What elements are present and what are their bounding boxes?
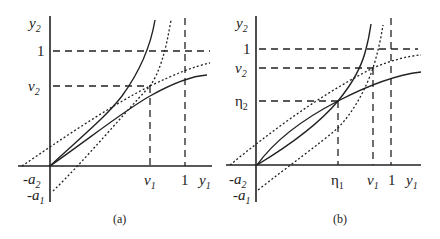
caption-b: (b) (333, 212, 347, 226)
y-tick-eta2-b: η2 (235, 93, 248, 112)
dotted-curve-concave-b (230, 55, 421, 165)
y-axis-label-b: y2 (234, 15, 248, 34)
solid-curve-concave-a (50, 75, 207, 166)
x-tick-v1-a: v1 (144, 172, 156, 191)
caption-a: (a) (113, 212, 126, 226)
y-tick-v2-a: v2 (28, 78, 40, 97)
y-tick-v2-b: v2 (235, 60, 247, 79)
panel-b: y2 1 v2 η2 η1 v1 1 y1 -a2 -a1 (b) (226, 15, 421, 226)
y-tick-1-a: 1 (37, 43, 45, 59)
x-tick-1-a: 1 (181, 172, 189, 188)
panel-a: y2 1 v2 v1 1 y1 -a2 -a1 (a) (18, 15, 212, 226)
neg-a1-label-a: -a1 (27, 187, 45, 206)
neg-a1-label-b: -a1 (233, 187, 251, 206)
solid-curve-steep-b (257, 24, 371, 165)
y-axis-label-a: y2 (27, 15, 41, 34)
figure: y2 1 v2 v1 1 y1 -a2 -a1 (a) y2 1 v2 η2 η… (0, 0, 440, 239)
solid-curve-concave-b (257, 72, 421, 165)
x-tick-1-b: 1 (388, 172, 396, 188)
x-tick-eta1-b: η1 (331, 172, 344, 191)
solid-curve-steep-a (50, 20, 155, 166)
y-tick-1-b: 1 (243, 41, 251, 57)
x-axis-label-a: y1 (197, 172, 211, 191)
x-axis-label-b: y1 (404, 172, 418, 191)
x-tick-v1-b: v1 (367, 172, 379, 191)
